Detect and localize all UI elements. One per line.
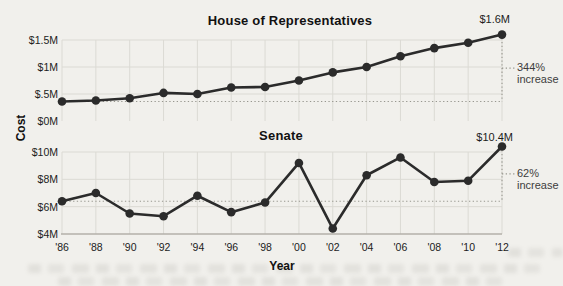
senate-increase-word: increase <box>517 180 563 192</box>
house-ytick-label: $0M <box>14 115 58 127</box>
x-tick-label: '00 <box>284 241 314 253</box>
house-ytick-label: $1.5M <box>14 34 58 46</box>
x-tick-label: '04 <box>352 241 382 253</box>
senate-increase-annotation: 62% increase <box>517 168 563 191</box>
senate-data-point <box>193 191 202 200</box>
senate-data-point <box>328 224 337 233</box>
house-data-point <box>328 68 337 77</box>
senate-data-point <box>362 171 371 180</box>
house-data-point <box>362 63 371 72</box>
senate-data-point <box>498 142 507 151</box>
house-data-point <box>58 97 67 106</box>
senate-ytick-label: $8M <box>14 173 58 185</box>
house-chart-title: House of Representatives <box>140 13 440 28</box>
senate-ytick-label: $4M <box>14 228 58 240</box>
house-data-point <box>227 83 236 92</box>
x-axis-title: Year <box>242 259 322 273</box>
house-data-point <box>498 30 507 39</box>
senate-increase-pct: 62% <box>517 168 563 180</box>
house-ytick-label: $.5M <box>14 88 58 100</box>
x-tick-label: '06 <box>385 241 415 253</box>
house-end-value-label: $1.6M <box>440 13 510 25</box>
house-data-point <box>396 52 405 61</box>
x-tick-label: '10 <box>453 241 483 253</box>
house-data-point <box>295 76 304 85</box>
house-data-point <box>159 89 168 98</box>
x-tick-label: '86 <box>47 241 77 253</box>
house-data-point <box>193 90 202 99</box>
senate-data-point <box>125 209 134 218</box>
x-tick-label: '94 <box>182 241 212 253</box>
house-ytick-label: $1M <box>14 61 58 73</box>
house-data-point <box>92 96 101 105</box>
chart-figure: House of Representatives Senate $1.6M $1… <box>0 0 563 286</box>
house-data-point <box>261 83 270 92</box>
x-tick-label: '12 <box>487 241 517 253</box>
senate-data-point <box>261 198 270 207</box>
senate-data-point <box>295 159 304 168</box>
house-data-point <box>464 38 473 47</box>
house-data-point <box>430 44 439 53</box>
senate-ytick-label: $6M <box>14 201 58 213</box>
senate-data-point <box>159 212 168 221</box>
x-tick-label: '02 <box>318 241 348 253</box>
house-increase-pct: 344% <box>517 62 563 74</box>
senate-end-value-label: $10.4M <box>443 131 513 143</box>
senate-data-point <box>92 189 101 198</box>
x-tick-label: '92 <box>149 241 179 253</box>
x-tick-label: '98 <box>250 241 280 253</box>
x-tick-label: '88 <box>81 241 111 253</box>
senate-data-point <box>396 153 405 162</box>
x-tick-label: '08 <box>419 241 449 253</box>
senate-data-point <box>464 176 473 185</box>
x-tick-label: '90 <box>115 241 145 253</box>
senate-data-point <box>58 197 67 206</box>
senate-data-point <box>430 178 439 187</box>
house-data-point <box>125 94 134 103</box>
senate-data-point <box>227 208 236 217</box>
x-tick-label: '96 <box>216 241 246 253</box>
house-increase-word: increase <box>517 74 563 86</box>
senate-chart-title: Senate <box>131 128 431 143</box>
house-increase-annotation: 344% increase <box>517 62 563 85</box>
senate-ytick-label: $10M <box>14 146 58 158</box>
